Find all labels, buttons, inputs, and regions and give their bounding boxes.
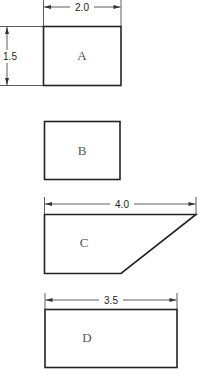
arrow-down-icon — [5, 78, 9, 85]
shape-d-width-dimension: 3.5 — [45, 293, 177, 309]
shape-d-rect — [45, 310, 177, 368]
arrow-right-icon — [114, 5, 121, 9]
shape-c-label: C — [80, 235, 89, 250]
shape-b-label: B — [78, 143, 87, 158]
shapes-diagram: A 2.0 1.5 B C — [0, 0, 208, 386]
shape-a-width-value: 2.0 — [75, 2, 89, 13]
shape-a: A 2.0 1.5 — [0, 0, 121, 86]
shape-a-width-dimension: 2.0 — [44, 0, 122, 26]
shape-d-label: D — [82, 330, 91, 345]
shape-c: C 4.0 — [45, 197, 197, 274]
arrow-up-icon — [5, 27, 9, 34]
shape-a-height-value: 1.5 — [3, 51, 17, 62]
shape-d-width-value: 3.5 — [104, 295, 118, 306]
shape-a-height-dimension: 1.5 — [0, 27, 43, 86]
arrow-left-icon — [44, 5, 51, 9]
arrow-right-icon — [189, 202, 196, 206]
shape-a-label: A — [77, 48, 87, 63]
arrow-left-icon — [46, 298, 53, 302]
shape-b: B — [45, 122, 121, 180]
shape-c-width-value: 4.0 — [115, 199, 129, 210]
shape-d: D 3.5 — [45, 293, 177, 368]
arrow-right-icon — [170, 298, 177, 302]
arrow-left-icon — [45, 202, 52, 206]
shape-c-width-dimension: 4.0 — [45, 197, 197, 214]
shape-c-trapezoid — [45, 215, 197, 274]
